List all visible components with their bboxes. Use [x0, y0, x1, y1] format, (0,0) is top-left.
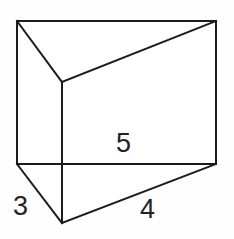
prism-figure: 3 4 5 [0, 0, 234, 239]
prism-drawing [0, 0, 234, 239]
edge-label-4: 4 [140, 196, 155, 223]
edge-label-5: 5 [116, 130, 131, 157]
edge-label-3: 3 [13, 193, 28, 220]
